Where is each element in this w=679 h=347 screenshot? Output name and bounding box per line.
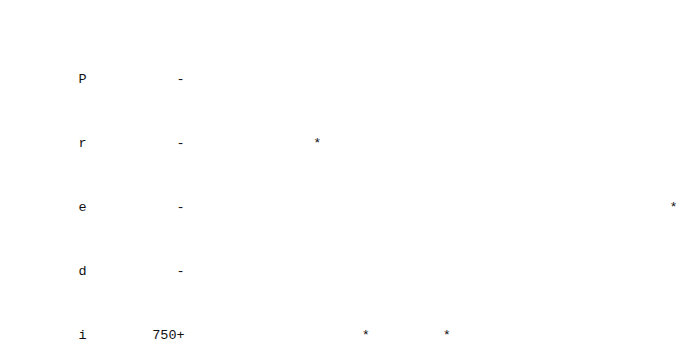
data-row: * bbox=[185, 200, 679, 216]
data-row: * bbox=[185, 136, 679, 152]
y-axis-title-char: e bbox=[49, 200, 117, 216]
y-axis-tick-750: 750+ bbox=[117, 328, 185, 344]
y-axis-tick: - bbox=[117, 72, 185, 88]
y-axis-title-char: P bbox=[49, 72, 117, 88]
y-axis-tick: - bbox=[117, 264, 185, 280]
data-row: * * bbox=[185, 328, 679, 344]
y-axis-title-char: d bbox=[49, 264, 117, 280]
plot-row: P- bbox=[0, 56, 679, 72]
y-axis-tick: - bbox=[117, 200, 185, 216]
plot-row: r- * bbox=[0, 120, 679, 136]
y-axis-title-char: r bbox=[49, 136, 117, 152]
plot-character-grid: P- r- * e- bbox=[0, 8, 679, 347]
plot-row: i750+ * * bbox=[0, 312, 679, 328]
y-axis-tick: - bbox=[117, 136, 185, 152]
data-row bbox=[185, 264, 679, 280]
data-row bbox=[185, 72, 679, 88]
plot-row: d- bbox=[0, 248, 679, 264]
plot-row: e- * bbox=[0, 184, 679, 200]
ascii-scatter-plot: P- r- * e- bbox=[0, 0, 679, 347]
y-axis-title-char: i bbox=[49, 328, 117, 344]
